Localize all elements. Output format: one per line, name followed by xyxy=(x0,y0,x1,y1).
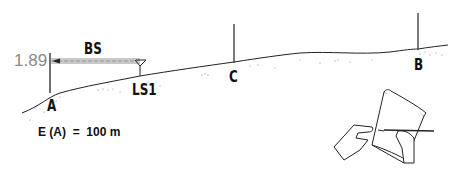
point-c-label: C xyxy=(229,68,238,86)
level-instrument-icon xyxy=(135,60,146,76)
survey-scene xyxy=(0,0,464,176)
point-b-label: B xyxy=(414,56,423,74)
point-a-label: A xyxy=(47,97,56,115)
field-book-hands-icon xyxy=(334,90,434,163)
elevation-statement: E (A) = 100 m xyxy=(38,125,120,139)
level-station-label: LS1 xyxy=(132,81,157,99)
staff-reading: 1.89 xyxy=(14,51,47,71)
backsight-label: BS xyxy=(84,40,102,58)
